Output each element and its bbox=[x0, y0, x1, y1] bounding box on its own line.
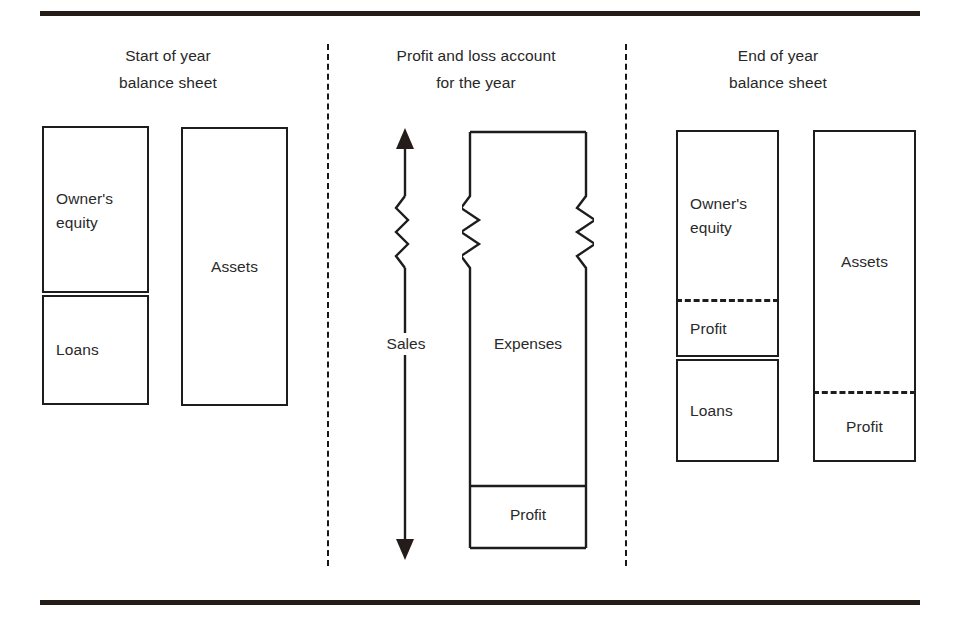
panel-title-end-of-year: End of year balance sheet bbox=[640, 42, 916, 96]
panel-divider-right bbox=[625, 44, 627, 566]
end-of-year-assets-column: Assets Profit bbox=[813, 130, 916, 462]
segment-label: Profit bbox=[846, 415, 883, 439]
segment-label: Loans bbox=[56, 338, 99, 362]
panel-title-start-of-year: Start of year balance sheet bbox=[40, 42, 296, 96]
start-of-year-equity-column: Owner's equity Loans bbox=[42, 126, 149, 405]
sales-label: Sales bbox=[352, 333, 460, 355]
panel-title-line-2: balance sheet bbox=[640, 69, 916, 96]
panel-title-line-2: balance sheet bbox=[40, 69, 296, 96]
segment-label: Profit bbox=[690, 317, 727, 341]
end-of-year-equity-column: Owner's equity Profit Loans bbox=[676, 130, 779, 462]
segment-label-expenses: Expenses bbox=[470, 335, 586, 353]
segment-label: Assets bbox=[211, 255, 258, 279]
segment-assets: Assets bbox=[815, 132, 914, 392]
segment-assets: Assets bbox=[183, 129, 286, 404]
segment-profit: Profit bbox=[815, 394, 914, 460]
panel-title-profit-and-loss: Profit and loss account for the year bbox=[340, 42, 612, 96]
panel-title-line-2: for the year bbox=[340, 69, 612, 96]
segment-label-profit: Profit bbox=[470, 506, 586, 524]
segment-profit: Profit bbox=[678, 302, 777, 355]
segment-label: Owner's equity bbox=[56, 187, 113, 235]
panel-divider-left bbox=[327, 44, 329, 566]
panel-title-line-1: End of year bbox=[640, 42, 916, 69]
start-of-year-assets-column: Assets bbox=[181, 127, 288, 406]
panel-title-line-1: Profit and loss account bbox=[340, 42, 612, 69]
segment-loans: Loans bbox=[44, 297, 147, 403]
accounting-flow-diagram: Start of year balance sheet Profit and l… bbox=[0, 0, 953, 619]
segment-loans: Loans bbox=[678, 361, 777, 460]
top-rule bbox=[40, 11, 920, 16]
segment-label: Owner's equity bbox=[690, 192, 747, 240]
segment-label: Assets bbox=[841, 250, 888, 274]
segment-owners-equity: Owner's equity bbox=[678, 132, 777, 300]
bottom-rule bbox=[40, 600, 920, 605]
panel-title-line-1: Start of year bbox=[40, 42, 296, 69]
segment-label: Loans bbox=[690, 399, 733, 423]
segment-owners-equity: Owner's equity bbox=[44, 128, 147, 293]
